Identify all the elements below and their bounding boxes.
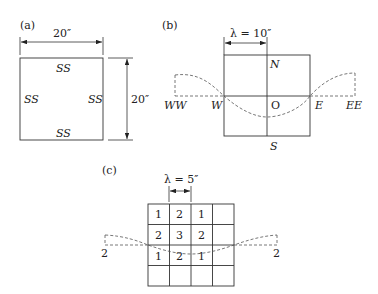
lambda-dimension-label: λ = 5″ — [164, 173, 198, 186]
edge-bottom-label: SS — [56, 127, 71, 140]
lambda-dimension-label: λ = 10″ — [230, 27, 271, 40]
diagram-canvas: (a) 20″ SS SS SS SS 20″ (b) λ = 10″ — [0, 0, 378, 294]
grid-cell: 1 — [198, 250, 205, 263]
edge-top-label: SS — [56, 62, 71, 75]
grid-cell: 3 — [176, 229, 183, 242]
panel-c-label: (c) — [102, 164, 117, 177]
edge-right-label: SS — [88, 93, 103, 106]
grid-cell: 2 — [198, 229, 205, 242]
point-east-label: E — [314, 99, 323, 112]
left-edge-label: 2 — [101, 247, 108, 260]
panel-a-label: (a) — [20, 19, 35, 32]
panel-a: (a) 20″ SS SS SS SS 20″ — [20, 19, 149, 140]
grid-cell: 1 — [155, 250, 162, 263]
panel-b: (b) λ = 10″ N S O W E WW EE — [162, 19, 362, 153]
point-north-label: N — [269, 58, 280, 71]
deflection-wave — [175, 73, 355, 117]
width-dimension-label: 20″ — [53, 27, 71, 40]
height-dimension-label: 20″ — [131, 93, 149, 106]
right-edge-label: 2 — [273, 247, 280, 260]
grid-cell: 2 — [176, 208, 183, 221]
panel-c: (c) λ = 5″ 1 2 1 2 3 2 1 2 1 2 2 — [101, 164, 280, 286]
grid-cell: 1 — [198, 208, 205, 221]
edge-left-label: SS — [24, 93, 39, 106]
panel-b-label: (b) — [162, 19, 178, 32]
point-west-west-label: WW — [164, 99, 188, 112]
grid-cell: 1 — [155, 208, 162, 221]
point-west-label: W — [211, 99, 224, 112]
point-east-east-label: EE — [345, 99, 362, 112]
point-origin-label: O — [271, 99, 280, 112]
grid-cell: 2 — [155, 229, 162, 242]
grid-cell: 2 — [176, 250, 183, 263]
point-south-label: S — [270, 140, 278, 153]
